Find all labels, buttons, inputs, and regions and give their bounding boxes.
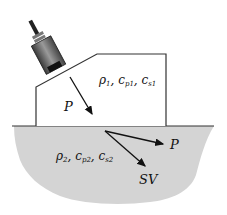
transducer (21, 16, 66, 75)
refracted-p-label: P (169, 137, 179, 152)
refracted-sv-label: SV (139, 172, 159, 187)
incident-p-label: P (63, 99, 73, 114)
lower-medium-region (14, 126, 214, 204)
wedge-refraction-diagram: ρ1, cp1, cs1 P ρ2, cp2, cs2 P SV (0, 0, 227, 215)
